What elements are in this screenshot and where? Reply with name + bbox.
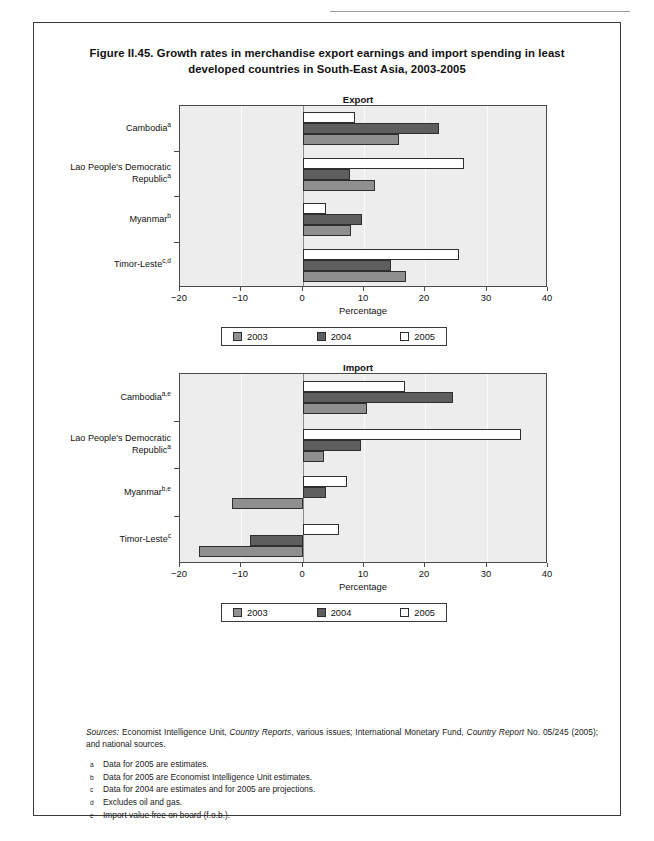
legend-item-2005[interactable]: 2005 bbox=[400, 608, 435, 618]
x-axis-title-export: Percentage bbox=[179, 305, 547, 316]
y-axis-tick bbox=[174, 196, 179, 197]
legend-swatch-icon bbox=[400, 332, 409, 341]
bar-export-2-2005 bbox=[303, 203, 326, 214]
x-axis-tick bbox=[302, 287, 303, 291]
category-label-export-3: Timor-Lestec,d bbox=[34, 258, 171, 270]
bar-export-0-2004 bbox=[303, 123, 439, 134]
legend-swatch-icon bbox=[233, 608, 242, 617]
footnote-text: Excludes oil and gas. bbox=[103, 797, 598, 809]
x-axis-tick-label: −20 bbox=[159, 568, 199, 579]
x-axis-tick bbox=[486, 563, 487, 567]
x-axis-tick bbox=[424, 563, 425, 567]
y-axis-tick bbox=[174, 151, 179, 152]
x-axis-tick bbox=[363, 287, 364, 291]
bar-import-2-2004 bbox=[303, 487, 326, 498]
x-axis-tick bbox=[240, 287, 241, 291]
category-label-superscript: a bbox=[167, 443, 171, 450]
gridline bbox=[241, 106, 242, 286]
legend-label: 2004 bbox=[331, 608, 352, 618]
bar-export-2-2003 bbox=[303, 225, 351, 236]
category-label-superscript: c bbox=[168, 532, 171, 539]
plot-frame-export bbox=[179, 105, 547, 287]
legend-swatch-icon bbox=[317, 332, 326, 341]
legend-item-2005[interactable]: 2005 bbox=[400, 332, 435, 342]
footnote-text: Data for 2005 are estimates. bbox=[103, 759, 598, 771]
gridline bbox=[487, 106, 488, 286]
legend-item-2003[interactable]: 2003 bbox=[233, 608, 268, 618]
footnote-list: aData for 2005 are estimates.bData for 2… bbox=[86, 759, 598, 821]
x-axis-tick bbox=[240, 563, 241, 567]
sources-label: Sources: bbox=[86, 727, 119, 737]
x-axis-title-import: Percentage bbox=[179, 581, 547, 592]
category-label-import-1: Lao People's DemocraticRepublica bbox=[34, 432, 171, 456]
x-axis-tick-label: −10 bbox=[220, 568, 260, 579]
category-label-line: Cambodiaa bbox=[34, 122, 171, 134]
legend-label: 2003 bbox=[247, 608, 268, 618]
figure-title-line1: Figure II.45. Growth rates in merchandis… bbox=[89, 47, 535, 59]
bar-export-3-2003 bbox=[303, 271, 406, 282]
figure-container: Figure II.45. Growth rates in merchandis… bbox=[33, 22, 621, 816]
x-axis-tick-label: 40 bbox=[527, 292, 567, 303]
footnote-text: Data for 2005 are Economist Intelligence… bbox=[103, 772, 598, 784]
y-axis-tick bbox=[174, 421, 179, 422]
footnote-text: Data for 2004 are estimates and for 2005… bbox=[103, 784, 598, 796]
category-label-line: Republica bbox=[34, 444, 171, 456]
panel-title-export: Export bbox=[130, 94, 586, 105]
category-label-import-3: Timor-Lestec bbox=[34, 533, 171, 545]
legend-item-2003[interactable]: 2003 bbox=[233, 332, 268, 342]
x-axis-tick bbox=[424, 287, 425, 291]
legend-export: 200320042005 bbox=[221, 327, 447, 346]
footnote-marker: e bbox=[86, 810, 103, 822]
category-label-superscript: a,e bbox=[162, 390, 171, 397]
category-label-import-2: Myanmarb,e bbox=[34, 486, 171, 498]
category-label-line: Myanmarb bbox=[34, 213, 171, 225]
x-axis-tick bbox=[547, 287, 548, 291]
x-axis-tick-label: 20 bbox=[404, 292, 444, 303]
bar-import-1-2003 bbox=[303, 451, 324, 462]
x-axis-tick-label: −10 bbox=[220, 292, 260, 303]
x-axis-tick-label: 10 bbox=[343, 292, 383, 303]
category-label-export-0: Cambodiaa bbox=[34, 122, 171, 134]
legend-swatch-icon bbox=[400, 608, 409, 617]
legend-label: 2005 bbox=[414, 608, 435, 618]
bar-export-0-2005 bbox=[303, 112, 355, 123]
x-axis-tick bbox=[547, 563, 548, 567]
footnote-text: Import value free on board (f.o.b.). bbox=[103, 810, 598, 822]
category-label-superscript: b,e bbox=[162, 485, 171, 492]
chart-panel-export: Export CambodiaaLao People's DemocraticR… bbox=[34, 94, 620, 310]
footnote-marker: c bbox=[86, 784, 103, 796]
bar-export-1-2004 bbox=[303, 169, 350, 180]
plot-area-import: Cambodiaa,eLao People's DemocraticRepubl… bbox=[34, 373, 620, 588]
bar-import-0-2003 bbox=[303, 403, 367, 414]
bar-export-0-2003 bbox=[303, 134, 399, 145]
category-label-line: Myanmarb,e bbox=[34, 486, 171, 498]
x-axis-tick-label: −20 bbox=[159, 292, 199, 303]
legend-label: 2003 bbox=[247, 332, 268, 342]
x-axis-tick-label: 20 bbox=[404, 568, 444, 579]
gridline bbox=[241, 374, 242, 562]
category-label-line: Lao People's Democratic bbox=[34, 432, 171, 444]
y-axis-tick bbox=[174, 242, 179, 243]
footnote-marker: b bbox=[86, 772, 103, 784]
legend-item-2004[interactable]: 2004 bbox=[317, 332, 352, 342]
footnote-item: eImport value free on board (f.o.b.). bbox=[86, 810, 598, 822]
category-label-export-1: Lao People's DemocraticRepublica bbox=[34, 161, 171, 185]
bar-import-1-2004 bbox=[303, 440, 361, 451]
legend-item-2004[interactable]: 2004 bbox=[317, 608, 352, 618]
bar-import-3-2004 bbox=[250, 535, 303, 546]
plot-frame-import bbox=[179, 373, 547, 563]
y-axis-tick bbox=[174, 468, 179, 469]
bar-import-0-2005 bbox=[303, 381, 405, 392]
legend-label: 2004 bbox=[331, 332, 352, 342]
bar-export-3-2004 bbox=[303, 260, 391, 271]
sources-italic-2: Country Report bbox=[467, 727, 524, 737]
footnote-marker: d bbox=[86, 797, 103, 809]
category-label-superscript: c,d bbox=[162, 257, 171, 264]
category-label-export-2: Myanmarb bbox=[34, 213, 171, 225]
x-axis-tick bbox=[486, 287, 487, 291]
notes-block: Sources: Economist Intelligence Unit, Co… bbox=[86, 727, 598, 822]
x-axis-tick-label: 30 bbox=[466, 292, 506, 303]
x-axis-tick-label: 30 bbox=[466, 568, 506, 579]
footnote-marker: a bbox=[86, 759, 103, 771]
footnote-item: cData for 2004 are estimates and for 200… bbox=[86, 784, 598, 796]
